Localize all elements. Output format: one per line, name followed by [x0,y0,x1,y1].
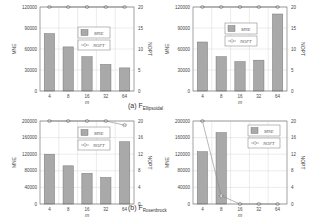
caption-a-prefix: (a) F [128,102,143,109]
legend-marker-nopt [84,144,87,147]
legend-label-nopt: NOPT [262,141,275,146]
figure: 03000060000900001200000510152048163264mM… [0,0,317,223]
y2-tick-label: 0 [291,202,294,207]
y2-tick-label: 15 [138,26,144,31]
y-tick-label: 0 [187,89,190,94]
bar-MNE [272,14,282,91]
legend: MNENOPT [78,27,110,50]
y-tick-label: 200000 [175,119,191,124]
y-tick-label: 200000 [22,119,38,124]
y-axis-label: MNE [164,43,170,55]
y2-tick-label: 10 [138,47,144,52]
chart-top-left: 03000060000900001200000510152048163264mM… [11,5,153,106]
y2-tick-label: 8 [291,168,294,173]
y-tick-label: 160000 [175,135,191,140]
caption-b-sub: Rosenbrock [143,208,167,213]
y-tick-label: 160000 [22,135,38,140]
y2-tick-label: 0 [291,89,294,94]
y-tick-label: 40000 [177,185,190,190]
x-axis-label: m [85,99,89,105]
bar-MNE [216,133,226,204]
bar-MNE [119,142,129,204]
bar-MNE [82,57,92,91]
legend-label-nopt: NOPT [92,143,105,148]
legend-swatch-mne [81,130,88,136]
x-tick-label: 64 [122,207,128,212]
legend: MNENOPT [225,23,257,46]
caption-b: (b) FRosenbrock [128,204,167,213]
bar-MNE [44,34,54,91]
x-tick-label: 64 [122,94,128,99]
y-tick-label: 60000 [24,47,37,52]
y-axis-label: MNE [164,156,170,168]
chart-top-right: 03000060000900001200000510152048163264mM… [164,5,306,106]
y2-tick-label: 10 [291,47,297,52]
y-tick-label: 0 [34,202,37,207]
x-axis-label: m [238,99,242,105]
legend-label-mne: MNE [240,27,251,32]
caption-a: (a) FEllipsoidal [128,102,163,111]
y2-tick-label: 20 [291,119,297,124]
y-tick-label: 120000 [175,5,191,10]
y2-tick-label: 16 [138,135,144,140]
x-tick-label: 4 [201,94,204,99]
x-tick-label: 8 [67,94,70,99]
y2-tick-label: 4 [138,185,141,190]
bar-MNE [254,60,264,91]
x-tick-label: 8 [220,94,223,99]
bar-MNE [197,152,207,204]
y-tick-label: 80000 [177,168,190,173]
legend-marker-nopt [231,40,234,43]
y2-tick-label: 5 [291,68,294,73]
bar-MNE [44,154,54,204]
y-tick-label: 40000 [24,185,37,190]
bar-MNE [101,177,111,204]
legend-marker-nopt [84,44,87,47]
x-tick-label: 4 [201,207,204,212]
legend: MNENOPT [248,125,280,148]
y-axis-label: MNE [11,156,17,168]
caption-b-prefix: (b) F [128,204,143,211]
y2-tick-label: 20 [138,5,144,10]
y-tick-label: 120000 [175,152,191,157]
y-tick-label: 30000 [177,68,190,73]
y2-tick-label: 5 [138,68,141,73]
caption-a-sub: Ellipsoidal [143,106,163,111]
bar-MNE [63,47,73,91]
y2-tick-label: 16 [291,135,297,140]
y-tick-label: 30000 [24,68,37,73]
y-tick-label: 120000 [22,5,38,10]
y2-axis-label: NOPT [147,156,153,170]
x-tick-label: 64 [275,207,281,212]
x-tick-label: 32 [256,207,262,212]
y2-tick-label: 20 [291,5,297,10]
x-axis-label: m [238,212,242,218]
y-tick-label: 90000 [24,26,37,31]
y2-tick-label: 8 [138,168,141,173]
y2-tick-label: 20 [138,119,144,124]
x-tick-label: 4 [48,207,51,212]
y2-tick-label: 15 [291,26,297,31]
chart-bottom-right: 0400008000012000016000020000004812162048… [164,119,306,219]
y2-axis-label: NOPT [300,42,306,56]
y2-tick-label: 12 [291,152,297,157]
y2-tick-label: 12 [138,152,144,157]
y-axis-label: MNE [11,43,17,55]
x-tick-label: 32 [256,94,262,99]
x-tick-label: 32 [103,207,109,212]
y2-tick-label: 4 [291,185,294,190]
legend-label-mne: MNE [93,31,104,36]
bar-MNE [197,42,207,91]
legend-label-mne: MNE [93,131,104,136]
legend-label-nopt: NOPT [239,39,252,44]
legend-marker-nopt [254,142,257,145]
bar-MNE [119,68,129,91]
y-tick-label: 60000 [177,47,190,52]
x-tick-label: 8 [220,207,223,212]
y2-axis-label: NOPT [147,42,153,56]
y-tick-label: 0 [187,202,190,207]
y-tick-label: 120000 [22,152,38,157]
y2-axis-label: NOPT [300,156,306,170]
legend-label-nopt: NOPT [92,43,105,48]
bar-MNE [101,64,111,91]
